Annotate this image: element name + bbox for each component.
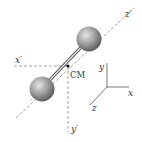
y-prime-label: y′ xyxy=(70,124,78,134)
y-axis-label: y xyxy=(98,62,105,72)
x-prime-label: x′ xyxy=(15,55,22,65)
diagram-canvas: z′ x′ y′ CM y x z xyxy=(0,0,142,142)
cm-label: CM xyxy=(70,70,86,80)
fixed-coordinate-axes xyxy=(90,63,129,105)
z-prime-axis xyxy=(16,8,134,118)
x-axis-label: x xyxy=(128,88,133,98)
z-axis-label: z xyxy=(91,103,97,113)
diatomic-molecule-diagram: z′ x′ y′ CM y x z xyxy=(0,0,142,142)
center-of-mass-point xyxy=(66,64,69,67)
lower-atom-sphere xyxy=(30,77,55,102)
z-prime-label: z′ xyxy=(124,9,132,19)
